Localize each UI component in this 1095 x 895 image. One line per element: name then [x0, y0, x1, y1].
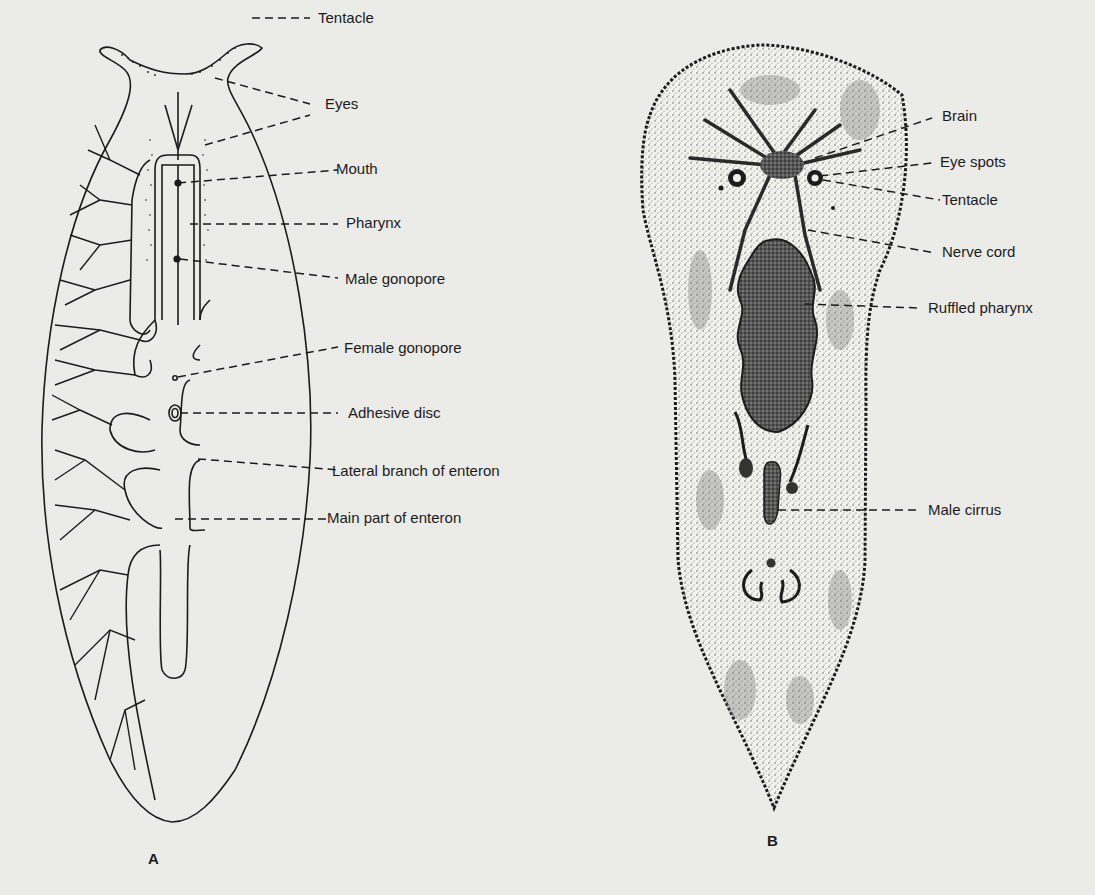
label-a-male-gonopore: Male gonopore — [345, 271, 445, 286]
label-a-mouth: Mouth — [336, 161, 378, 176]
diagram-svg — [0, 0, 1095, 895]
figure-canvas: Tentacle Eyes Mouth Pharynx Male gonopor… — [0, 0, 1095, 895]
label-b-ruffled-pharynx: Ruffled pharynx — [928, 300, 1033, 315]
label-a-tentacle: Tentacle — [318, 10, 374, 25]
panel-a-drawing — [42, 44, 311, 822]
label-a-main-enteron: Main part of enteron — [327, 510, 461, 525]
label-a-eyes: Eyes — [325, 96, 358, 111]
label-b-eye-spots: Eye spots — [940, 154, 1006, 169]
label-a-adhesive-disc: Adhesive disc — [348, 405, 441, 420]
label-b-male-cirrus: Male cirrus — [928, 502, 1001, 517]
label-b-tentacle: Tentacle — [942, 192, 998, 207]
panel-a-letter: A — [148, 850, 159, 867]
label-a-lateral-branch: Lateral branch of enteron — [332, 463, 500, 478]
label-a-pharynx: Pharynx — [346, 215, 401, 230]
panel-b-letter: B — [767, 832, 778, 849]
label-a-female-gonopore: Female gonopore — [344, 340, 462, 355]
label-b-nerve-cord: Nerve cord — [942, 244, 1015, 259]
label-b-brain: Brain — [942, 108, 977, 123]
panel-b-drawing — [642, 45, 907, 808]
